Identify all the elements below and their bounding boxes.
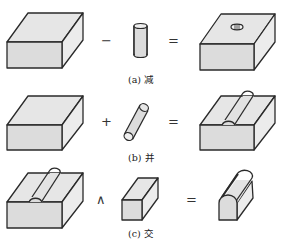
row-b-equals: = [168, 114, 179, 129]
row-c-result-rounded-box [219, 170, 253, 220]
row-a-operator: − [101, 33, 112, 48]
row-b-operator: + [101, 114, 112, 129]
row-c-equals: = [186, 192, 197, 207]
row-a-equals: = [168, 33, 179, 48]
row-a-block [7, 13, 83, 68]
row-c-operator: ∧ [96, 192, 106, 207]
row-b-result-block-with-rod [200, 91, 275, 150]
caption-a: (a) 减 [128, 74, 154, 85]
row-b-block [7, 96, 83, 150]
row-a-result-block-with-hole [200, 14, 275, 70]
csg-boolean-diagram: − = (a) 减 + = [0, 0, 283, 252]
caption-b: (b) 并 [128, 152, 155, 163]
row-c-narrow-box [122, 178, 158, 220]
row-a-cylinder [134, 24, 147, 58]
row-b-diagonal-rod [123, 102, 150, 142]
row-c-block-with-rod [7, 168, 83, 228]
caption-c: (c) 交 [128, 228, 154, 239]
